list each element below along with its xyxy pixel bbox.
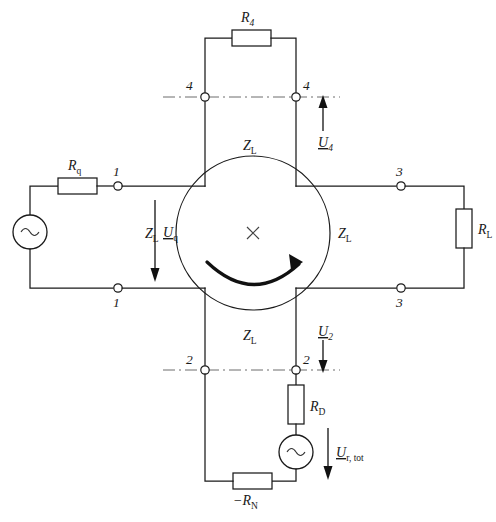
resistor-rq-body [58, 178, 97, 194]
resistor-r4-body [232, 30, 271, 46]
label-rq-main: R [67, 158, 77, 173]
resistor-rd-body [288, 385, 304, 424]
label-rn-sub: N [251, 501, 258, 511]
label-zl-right-main: Z [338, 226, 346, 241]
label-port-4-left: 4 [186, 78, 193, 93]
label-rd-main: R [309, 399, 319, 414]
label-r4: R4 [240, 10, 255, 28]
wire-rn-to-node2l [205, 374, 233, 481]
label-u2-sub: 2 [328, 332, 333, 342]
label-rl-sub: L [487, 230, 493, 240]
wire-node3-to-rl [405, 186, 464, 209]
label-r4-sub: 4 [250, 18, 255, 28]
urtot-arrow-head [324, 466, 333, 480]
rotation-arrow-curve [207, 262, 299, 285]
cross-icon [247, 227, 259, 239]
label-zl-bottom: ZL [243, 328, 257, 346]
node-1-bottom [114, 284, 122, 292]
wire-r4-to-node4r [271, 38, 296, 97]
label-rd-sub: D [319, 407, 326, 417]
label-zl-top-sub: L [251, 146, 257, 156]
node-2-right [292, 366, 300, 374]
wire-node4l-to-r4 [205, 38, 232, 97]
label-u2: U2 [318, 324, 333, 342]
label-urtot-sub: r, tot [346, 453, 364, 463]
bottom-source-branch [163, 288, 340, 489]
label-rq: Rq [67, 158, 82, 176]
label-uq-sub: q [173, 233, 178, 243]
wire-source-to-rn [272, 469, 296, 481]
label-zl-top: ZL [243, 138, 257, 156]
node-4-left [201, 93, 209, 101]
node-2-left [201, 366, 209, 374]
label-u4-sub: 4 [328, 143, 333, 153]
label-port-2-right: 2 [303, 352, 310, 367]
label-zl-right-sub: L [346, 234, 352, 244]
label-rq-sub: q [77, 166, 82, 176]
label-rn: −RN [233, 493, 258, 511]
node-4-right [292, 93, 300, 101]
label-port-1-bottom: 1 [113, 295, 120, 310]
wire-source-bottom [30, 249, 113, 288]
node-3-bottom [397, 284, 405, 292]
label-rl-main: R [477, 222, 487, 237]
circuit-diagram: Rq Uq R4 RL RD −RN Ur, tot U4 U2 ZL ZL Z… [0, 0, 496, 522]
label-zl-bottom-sub: L [251, 336, 257, 346]
label-zl-right: ZL [338, 226, 352, 244]
resistor-rl-body [456, 209, 472, 248]
resistor-rn-body [233, 473, 272, 489]
uq-arrow-head [151, 268, 160, 282]
label-port-3-top: 3 [395, 164, 403, 179]
wire-source-to-rq [30, 186, 58, 215]
label-rl: RL [477, 222, 493, 240]
rotating-machine-group [176, 156, 330, 310]
top-r4-branch [163, 30, 340, 186]
wire-rl-to-node3b [405, 248, 464, 288]
label-rd: RD [309, 399, 326, 417]
label-r4-main: R [240, 10, 250, 25]
label-port-1-top: 1 [113, 164, 120, 179]
u2-arrow-head [319, 360, 328, 373]
label-port-2-left: 2 [186, 352, 193, 367]
labels-group: Rq Uq R4 RL RD −RN Ur, tot U4 U2 ZL ZL Z… [67, 10, 493, 511]
node-3-top [397, 182, 405, 190]
label-zl-top-main: Z [243, 138, 251, 153]
node-1-top [114, 182, 122, 190]
label-urtot: Ur, tot [336, 445, 364, 463]
label-zl-left-sub: L [153, 234, 159, 244]
label-port-4-right: 4 [303, 78, 310, 93]
label-zl-bottom-main: Z [243, 328, 251, 343]
label-port-3-bottom: 3 [395, 295, 403, 310]
label-rn-main: −R [233, 493, 251, 508]
label-zl-left-main: Z [145, 226, 153, 241]
circuit-svg: Rq Uq R4 RL RD −RN Ur, tot U4 U2 ZL ZL Z… [0, 0, 496, 522]
label-u4: U4 [318, 135, 333, 153]
label-zl-left: ZL [145, 226, 159, 244]
